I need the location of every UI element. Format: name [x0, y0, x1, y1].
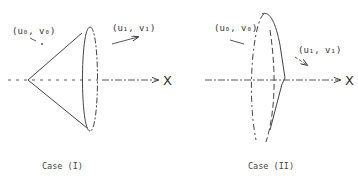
case1-velocity-arrow	[112, 37, 138, 44]
case1-axis-label: X	[163, 73, 172, 88]
case2-pointer-left	[230, 40, 244, 44]
case1-pointer-mark	[30, 38, 36, 41]
case2-figure: (u₀, v₀) (u₁, v₁) X Case (II)	[205, 13, 354, 171]
case2-caption: Case (II)	[248, 161, 294, 171]
case1-cone-lower	[28, 80, 87, 128]
case2-label-right: (u₁, v₁)	[298, 45, 341, 55]
case1-caption: Case (I)	[42, 161, 83, 171]
case1-figure: (u₀, v₀) (u₁, v₁) X Case (I)	[8, 23, 172, 171]
diagram-canvas: (u₀, v₀) (u₁, v₁) X Case (I) (u₀, v₀) (u…	[0, 0, 358, 180]
case2-pointer-right	[295, 57, 307, 65]
case1-ellipse-front	[90, 27, 98, 131]
case1-ellipse-back	[83, 27, 91, 131]
case2-axis-label: X	[345, 73, 354, 88]
case2-ellipse-dashed-right	[266, 30, 274, 142]
case2-label-left: (u₀, v₀)	[214, 23, 257, 33]
case1-dot	[41, 43, 43, 45]
case1-label-left: (u₀, v₀)	[12, 26, 55, 36]
case1-label-right: (u₁, v₁)	[112, 23, 155, 33]
case1-cone-upper	[28, 33, 82, 80]
